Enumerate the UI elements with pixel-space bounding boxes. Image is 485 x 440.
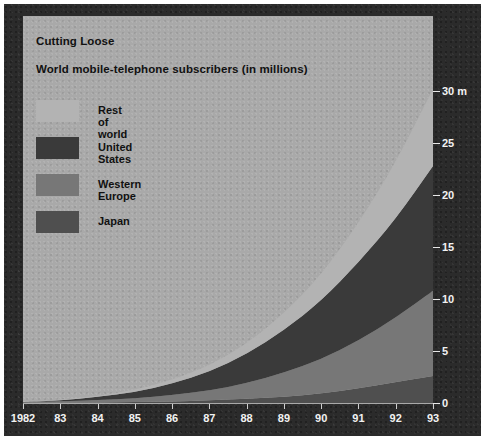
- legend-label: Rest of world: [98, 104, 127, 140]
- y-axis-label: 5: [442, 345, 448, 357]
- chart-subtitle: World mobile-telephone subscribers (in m…: [36, 63, 308, 75]
- y-axis-label: 0: [442, 397, 448, 409]
- legend-label: Western Europe: [98, 178, 141, 202]
- x-axis-label: 92: [390, 412, 402, 424]
- x-axis-tick: [433, 404, 434, 409]
- x-axis-label: 1982: [11, 412, 35, 424]
- x-axis-label: 89: [278, 412, 290, 424]
- x-axis-tick: [98, 404, 99, 409]
- x-axis-tick: [396, 404, 397, 409]
- y-axis-label: 10: [442, 293, 454, 305]
- x-axis-label: 83: [54, 412, 66, 424]
- x-axis-tick: [321, 404, 322, 409]
- y-axis-tick: [433, 403, 440, 404]
- y-axis-tick: [433, 299, 440, 300]
- x-axis-tick: [135, 404, 136, 409]
- legend-swatch: [36, 137, 79, 159]
- x-axis-tick: [172, 404, 173, 409]
- legend-label: Japan: [98, 215, 130, 227]
- x-axis-tick: [284, 404, 285, 409]
- x-axis-label: 90: [315, 412, 327, 424]
- x-axis-tick: [60, 404, 61, 409]
- y-axis-label: 25: [442, 137, 454, 149]
- x-axis-label: 88: [241, 412, 253, 424]
- x-axis-tick: [23, 404, 24, 409]
- x-axis-label: 87: [203, 412, 215, 424]
- legend-swatch: [36, 174, 79, 196]
- x-axis-tick: [247, 404, 248, 409]
- x-axis-tick: [209, 404, 210, 409]
- legend-swatch: [36, 100, 79, 122]
- y-axis-tick: [433, 247, 440, 248]
- y-axis-tick: [433, 91, 440, 92]
- y-axis-label: 20: [442, 189, 454, 201]
- y-axis-label: 30 m: [442, 85, 467, 97]
- legend-swatch: [36, 211, 79, 233]
- x-axis-tick: [358, 404, 359, 409]
- y-axis-tick: [433, 195, 440, 196]
- y-axis-tick: [433, 143, 440, 144]
- legend-label: United States: [98, 141, 132, 165]
- y-axis-tick: [433, 351, 440, 352]
- y-axis-label: 15: [442, 241, 454, 253]
- chart-title: Cutting Loose: [36, 35, 115, 47]
- x-axis-label: 93: [427, 412, 439, 424]
- x-axis-label: 84: [91, 412, 103, 424]
- x-axis-label: 91: [352, 412, 364, 424]
- x-axis-label: 85: [129, 412, 141, 424]
- plot-panel: Cutting Loose World mobile-telephone sub…: [23, 16, 433, 404]
- chart-figure: Cutting Loose World mobile-telephone sub…: [0, 0, 485, 440]
- x-axis-label: 86: [166, 412, 178, 424]
